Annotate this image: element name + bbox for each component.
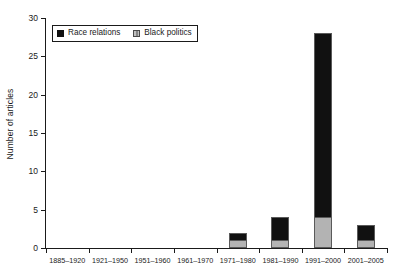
x-axis-tick — [131, 248, 132, 253]
y-axis-tick-label: 5 — [33, 205, 38, 216]
y-axis-tick-label: 25 — [29, 51, 38, 62]
y-axis-title-text: Number of articles — [5, 89, 15, 160]
y-axis-tick-label: 0 — [33, 243, 38, 254]
chart-legend: Race relations Black politics — [52, 25, 198, 42]
x-axis-tick — [344, 248, 345, 253]
y-axis-tick-label: 30 — [29, 13, 38, 24]
x-axis-tick — [89, 248, 90, 253]
y-axis-tick-label: 15 — [29, 128, 38, 139]
y-axis-tick: 25 — [41, 56, 46, 57]
x-axis-tick-label: 2001–2005 — [348, 256, 384, 265]
bar-segment-race-relations — [271, 217, 289, 240]
plot-area: 051015202530 1885–19201921–19501951–1960… — [45, 18, 387, 249]
bar-stack — [357, 225, 375, 248]
y-axis-tick-label: 20 — [29, 90, 38, 101]
bar-segment-race-relations — [314, 33, 332, 217]
y-axis-tick: 30 — [41, 18, 46, 19]
bar-stack — [229, 233, 247, 248]
x-axis-tick-label: 1885–1920 — [49, 256, 85, 265]
bar-stack — [271, 217, 289, 248]
y-axis-title: Number of articles — [0, 0, 20, 248]
x-axis-tick-label: 1991–2000 — [305, 256, 341, 265]
legend-item-race-relations: Race relations — [57, 28, 120, 38]
x-axis-tick-label: 1981–1990 — [262, 256, 298, 265]
bar-segment-black-politics — [314, 217, 332, 248]
x-axis-tick — [174, 248, 175, 253]
gray-hatched-square-icon — [133, 30, 140, 37]
bar-chart-figure: Number of articles 051015202530 1885–192… — [0, 0, 403, 274]
x-axis-tick — [46, 248, 47, 253]
x-axis-tick-label: 1921–1950 — [92, 256, 128, 265]
x-axis-tick-label: 1951–1960 — [135, 256, 171, 265]
bar-segment-black-politics — [229, 240, 247, 248]
bar-segment-black-politics — [357, 240, 375, 248]
x-axis-tick-label: 1971–1980 — [220, 256, 256, 265]
y-axis-tick: 15 — [41, 133, 46, 134]
bar-segment-black-politics — [271, 240, 289, 248]
y-axis-tick-label: 10 — [29, 166, 38, 177]
legend-label-race-relations: Race relations — [68, 28, 120, 38]
legend-label-black-politics: Black politics — [144, 28, 191, 38]
bar-stack — [314, 33, 332, 248]
x-axis-tick — [259, 248, 260, 253]
bar-segment-race-relations — [357, 225, 375, 240]
bar-segment-race-relations — [229, 233, 247, 241]
y-axis-tick: 5 — [41, 210, 46, 211]
y-axis-tick: 10 — [41, 171, 46, 172]
y-axis-tick: 20 — [41, 95, 46, 96]
x-axis-tick — [217, 248, 218, 253]
x-axis-tick — [387, 248, 388, 253]
x-axis-tick — [302, 248, 303, 253]
x-axis-tick-label: 1961–1970 — [177, 256, 213, 265]
black-square-icon — [57, 30, 64, 37]
legend-item-black-politics: Black politics — [133, 28, 191, 38]
